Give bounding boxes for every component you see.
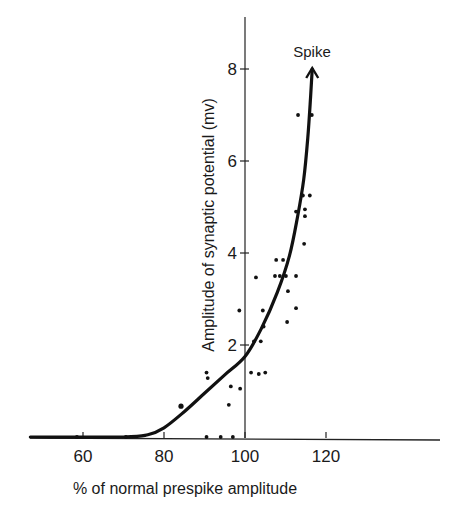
data-point <box>259 339 263 343</box>
data-point <box>294 306 298 310</box>
x-tick-label: 60 <box>74 447 93 466</box>
spike-annotation: Spike <box>293 43 331 60</box>
data-point <box>274 258 278 262</box>
data-point <box>284 274 288 278</box>
y-tick-label: 8 <box>228 60 237 79</box>
data-point <box>231 435 235 439</box>
x-tick-label: 80 <box>155 447 174 466</box>
y-tick-label: 6 <box>228 152 237 171</box>
y-tick-label: 4 <box>228 244 237 263</box>
x-tick-label: 100 <box>231 447 259 466</box>
data-point <box>301 194 305 198</box>
data-point <box>257 372 261 376</box>
data-point <box>75 435 79 439</box>
data-point <box>262 325 266 329</box>
data-point <box>229 385 233 389</box>
data-point <box>219 435 223 439</box>
data-point <box>294 274 298 278</box>
data-point <box>261 309 265 313</box>
data-point <box>296 113 300 117</box>
data-point <box>310 113 314 117</box>
curve-path <box>30 69 312 437</box>
data-point <box>281 258 285 262</box>
data-point <box>285 320 289 324</box>
data-point <box>278 274 282 278</box>
data-point <box>308 194 312 198</box>
data-points <box>75 113 314 439</box>
axes: 60801001202468 <box>30 17 440 466</box>
y-axis-title: Amplitude of synaptic potential (mv) <box>200 98 217 351</box>
y-tick-label: 2 <box>228 336 237 355</box>
data-point <box>303 214 307 218</box>
data-point <box>254 275 258 279</box>
data-point <box>205 435 209 439</box>
data-point <box>205 371 209 375</box>
chart: 60801001202468 % of normal prespike ampl… <box>0 0 470 516</box>
data-point <box>178 404 183 409</box>
data-point <box>302 242 306 246</box>
labels: % of normal prespike amplitude Amplitude… <box>73 43 331 497</box>
data-point <box>206 376 210 380</box>
data-point <box>294 210 298 214</box>
fitted-curve <box>30 68 318 437</box>
data-point <box>273 274 277 278</box>
data-point <box>286 289 290 293</box>
data-point <box>227 403 231 407</box>
data-point <box>237 309 241 313</box>
data-point <box>249 371 253 375</box>
x-axis-title: % of normal prespike amplitude <box>73 480 297 497</box>
data-point <box>263 371 267 375</box>
data-point <box>303 207 307 211</box>
data-point <box>238 387 242 391</box>
data-point <box>124 435 128 439</box>
x-tick-label: 120 <box>312 447 340 466</box>
data-point <box>252 339 256 343</box>
